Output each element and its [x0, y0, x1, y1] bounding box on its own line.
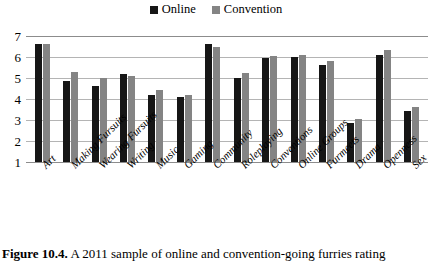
x-label-slot: Online Groups [284, 162, 312, 234]
plot-area: 7654321 [0, 36, 432, 162]
figure-caption-text: A 2011 sample of online and convention-g… [68, 246, 386, 261]
legend-label-online: Online [162, 3, 196, 16]
bar-group [170, 36, 198, 162]
legend-swatch-online [150, 6, 158, 14]
x-label-slot: Music [142, 162, 170, 234]
legend-entry-online: Online [150, 3, 196, 16]
x-label-slot: Conventions [255, 162, 283, 234]
x-label-slot: Gaming [170, 162, 198, 234]
bar-convention [156, 90, 163, 162]
bar-group [28, 36, 56, 162]
y-tick-label-6: 6 [15, 51, 22, 64]
x-label-slot: Writing [113, 162, 141, 234]
y-tick-label-7: 7 [15, 30, 22, 43]
y-tick-label-1: 1 [15, 156, 22, 169]
y-tick-label-4: 4 [15, 93, 22, 106]
legend-swatch-convention [212, 6, 220, 14]
bar-convention [100, 78, 107, 162]
bar-group [56, 36, 84, 162]
bar-convention [327, 61, 334, 162]
bar-convention [384, 50, 391, 162]
bar-online [35, 44, 42, 162]
y-axis-tick-labels: 7654321 [0, 36, 26, 162]
bar-online [63, 81, 70, 162]
bar-convention [242, 73, 249, 162]
y-tick-label-2: 2 [15, 135, 22, 148]
x-label-slot: Sex [397, 162, 425, 234]
x-label-slot: Community [199, 162, 227, 234]
y-tick-label-5: 5 [15, 72, 22, 85]
figure-caption: Figure 10.4. A 2011 sample of online and… [0, 246, 432, 262]
bar-convention [128, 76, 135, 162]
bar-convention [43, 44, 50, 162]
x-label-slot: Making Fursuits [56, 162, 84, 234]
x-label-slot: Art [28, 162, 56, 234]
chart-legend: Online Convention [0, 3, 432, 16]
y-tick-label-3: 3 [15, 114, 22, 127]
bar-convention [71, 72, 78, 162]
x-label-slot: Wearing Fursuits [85, 162, 113, 234]
x-label-slot: Roleplaying [227, 162, 255, 234]
x-label-slot: Openness [369, 162, 397, 234]
x-axis-category-labels: ArtMaking FursuitsWearing FursuitsWritin… [26, 162, 428, 234]
legend-entry-convention: Convention [212, 3, 282, 16]
figure-container: Online Convention 7654321 ArtMaking Furs… [0, 0, 432, 278]
x-label-slot: Furmeets [312, 162, 340, 234]
x-label-slot: Drama [341, 162, 369, 234]
legend-label-convention: Convention [224, 3, 282, 16]
figure-number: Figure 10.4. [2, 246, 68, 261]
